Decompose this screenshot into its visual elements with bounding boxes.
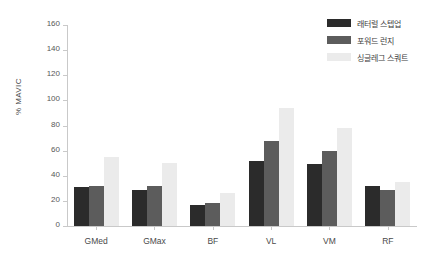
x-tick-mark xyxy=(388,226,389,230)
bar xyxy=(74,187,89,226)
x-tick-label: VL xyxy=(242,236,300,246)
y-tick-label: 160 xyxy=(47,19,60,28)
bar xyxy=(89,186,104,226)
y-tick-label: 60 xyxy=(51,145,60,154)
y-tick-label: 0 xyxy=(56,220,60,229)
y-axis-tick: 20 xyxy=(38,201,67,202)
bar xyxy=(279,108,294,226)
y-tick-label: 120 xyxy=(47,69,60,78)
legend-item: 래터럴 스텝업 xyxy=(327,17,408,29)
bar xyxy=(322,151,337,226)
x-axis-line xyxy=(67,226,417,227)
y-tick-label: 80 xyxy=(51,120,60,129)
legend-item: 포워드 런지 xyxy=(327,34,408,46)
bar xyxy=(264,141,279,226)
x-tick-label: VM xyxy=(300,236,358,246)
y-tick-label: 100 xyxy=(47,94,60,103)
legend-item: 싱글레그 스쿼트 xyxy=(327,51,408,63)
bar xyxy=(307,164,322,226)
bar xyxy=(380,190,395,226)
y-axis-tick: 60 xyxy=(38,151,67,152)
bar-group-bf: BF xyxy=(184,25,242,226)
y-tick-label: 40 xyxy=(51,170,60,179)
x-tick-mark xyxy=(154,226,155,230)
bar xyxy=(220,193,235,226)
bar xyxy=(162,163,177,226)
x-tick-mark xyxy=(96,226,97,230)
legend-label: 포워드 런지 xyxy=(357,35,394,46)
legend-swatch xyxy=(327,19,351,27)
y-tick-label: 20 xyxy=(51,195,60,204)
bar-group-vl: VL xyxy=(242,25,300,226)
bar xyxy=(395,182,410,226)
y-tick-mark xyxy=(63,226,67,227)
x-tick-mark xyxy=(213,226,214,230)
x-tick-label: RF xyxy=(359,236,417,246)
bar xyxy=(337,128,352,226)
legend-swatch xyxy=(327,36,351,44)
bar xyxy=(249,161,264,226)
legend: 래터럴 스텝업포워드 런지싱글레그 스쿼트 xyxy=(327,17,408,68)
bar xyxy=(104,157,119,226)
legend-label: 래터럴 스텝업 xyxy=(357,18,401,29)
y-axis-tick: 120 xyxy=(38,75,67,76)
x-tick-mark xyxy=(329,226,330,230)
y-tick-label: 140 xyxy=(47,44,60,53)
y-axis-tick: 80 xyxy=(38,126,67,127)
bar xyxy=(132,190,147,226)
y-axis-tick: 100 xyxy=(38,100,67,101)
x-tick-label: BF xyxy=(184,236,242,246)
y-axis-tick: 0 xyxy=(38,226,67,227)
bar xyxy=(190,205,205,226)
bar xyxy=(365,186,380,226)
y-axis-title: % MAVIC xyxy=(14,35,23,115)
bar-group-gmax: GMax xyxy=(125,25,183,226)
bar-group-gmed: GMed xyxy=(67,25,125,226)
bar xyxy=(205,203,220,226)
y-axis-tick: 40 xyxy=(38,176,67,177)
bar-chart: % MAVIC 020406080100120140160 GMedGMaxBF… xyxy=(0,0,434,262)
x-tick-label: GMax xyxy=(125,236,183,246)
y-axis-tick: 160 xyxy=(38,25,67,26)
y-axis-tick: 140 xyxy=(38,50,67,51)
x-tick-label: GMed xyxy=(67,236,125,246)
x-tick-mark xyxy=(271,226,272,230)
legend-label: 싱글레그 스쿼트 xyxy=(357,52,408,63)
legend-swatch xyxy=(327,53,351,61)
bar xyxy=(147,186,162,226)
